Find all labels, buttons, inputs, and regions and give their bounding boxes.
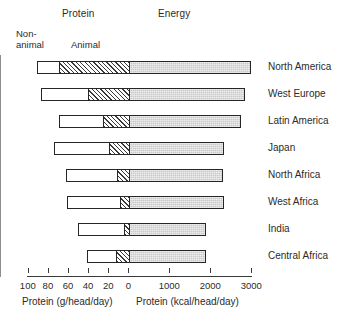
- segment-animal: [109, 143, 129, 154]
- segment-animal: [116, 251, 129, 262]
- axis-title-right: Protein (kcal/head/day): [136, 296, 239, 307]
- segment-animal: [103, 116, 129, 127]
- axis-tick-label: 0: [126, 280, 131, 291]
- segment-energy: [129, 89, 244, 100]
- legend-label-nonanimal: Non- animal: [16, 29, 44, 50]
- bar-row: [0, 217, 262, 244]
- axis-tick-label: 1000: [159, 280, 180, 291]
- bar-central-africa[interactable]: [87, 250, 206, 263]
- bar-japan[interactable]: [54, 142, 224, 155]
- segment-energy: [129, 116, 240, 127]
- axis-line: [27, 276, 252, 277]
- category-label-japan: Japan: [268, 142, 295, 153]
- segment-energy: [129, 143, 223, 154]
- legend-label-nonanimal-line1: Non-: [16, 28, 37, 39]
- bar-india[interactable]: [78, 223, 206, 236]
- segment-nonanimal: [42, 89, 88, 100]
- bar-row: [0, 244, 262, 271]
- segment-nonanimal: [68, 197, 120, 208]
- legend-label-animal: Animal: [71, 40, 100, 51]
- segment-animal: [120, 197, 129, 208]
- bar-row: [0, 55, 262, 82]
- category-label-north-africa: North Africa: [268, 169, 320, 180]
- section-header-energy: Energy: [158, 8, 190, 19]
- bar-row: [0, 190, 262, 217]
- axis-tick-label: 20: [103, 280, 114, 291]
- axis-tick-label: 100: [20, 280, 36, 291]
- bar-row: [0, 163, 262, 190]
- axis-tick: [88, 268, 89, 273]
- axis-tick: [128, 268, 129, 273]
- x-axis: 100806040200100020003000 Protein (g/head…: [0, 272, 357, 321]
- segment-animal: [59, 62, 129, 73]
- bar-west-europe[interactable]: [41, 88, 245, 101]
- axis-tick-label: 3000: [241, 280, 262, 291]
- axis-tick: [210, 268, 211, 273]
- segment-nonanimal: [67, 170, 117, 181]
- axis-tick: [48, 268, 49, 273]
- category-label-central-africa: Central Africa: [268, 250, 328, 261]
- bar-north-africa[interactable]: [66, 169, 223, 182]
- segment-nonanimal: [88, 251, 116, 262]
- bar-row: [0, 82, 262, 109]
- bar-row: [0, 136, 262, 163]
- category-label-latin-america: Latin America: [268, 115, 329, 126]
- protein-energy-chart: Protein Energy Non- animal Animal North …: [0, 0, 357, 321]
- bar-north-america[interactable]: [37, 61, 251, 74]
- segment-energy: [129, 224, 205, 235]
- axis-tick-label: 80: [43, 280, 54, 291]
- segment-energy: [129, 62, 250, 73]
- segment-nonanimal: [60, 116, 103, 127]
- category-label-north-america: North America: [268, 61, 331, 72]
- axis-tick: [251, 268, 252, 273]
- axis-tick: [169, 268, 170, 273]
- segment-animal: [117, 170, 129, 181]
- segment-animal: [88, 89, 129, 100]
- axis-tick-label: 60: [63, 280, 74, 291]
- category-label-west-europe: West Europe: [268, 88, 326, 99]
- segment-energy: [129, 251, 205, 262]
- axis-tick-label: 2000: [200, 280, 221, 291]
- axis-tick: [28, 268, 29, 273]
- bar-latin-america[interactable]: [59, 115, 242, 128]
- segment-nonanimal: [38, 62, 59, 73]
- bar-row: [0, 109, 262, 136]
- axis-title-left: Protein (g/head/day): [22, 296, 113, 307]
- category-label-india: India: [268, 223, 290, 234]
- segment-nonanimal: [79, 224, 124, 235]
- segment-nonanimal: [55, 143, 109, 154]
- bar-west-africa[interactable]: [67, 196, 224, 209]
- axis-tick: [108, 268, 109, 273]
- segment-energy: [129, 197, 223, 208]
- axis-tick-label: 40: [83, 280, 94, 291]
- axis-tick: [68, 268, 69, 273]
- section-header-protein: Protein: [62, 8, 94, 19]
- legend-label-nonanimal-line2: animal: [16, 39, 44, 50]
- segment-energy: [129, 170, 221, 181]
- plot-area: [0, 55, 262, 268]
- category-label-west-africa: West Africa: [268, 196, 318, 207]
